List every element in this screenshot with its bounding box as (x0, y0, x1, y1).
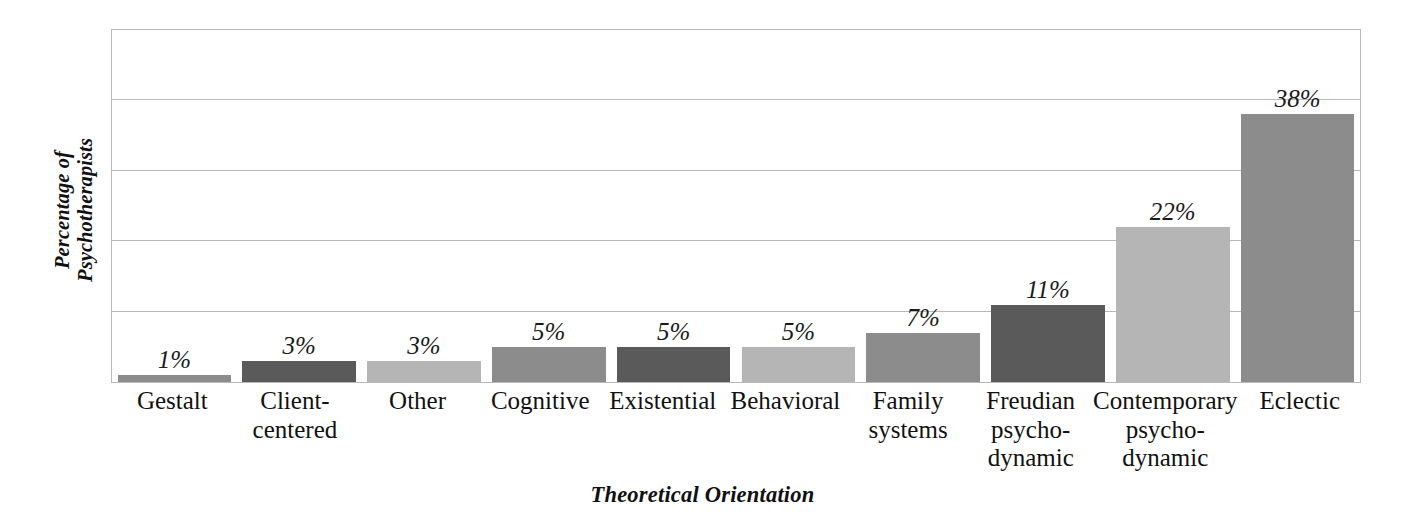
bar-value-label: 3% (283, 333, 316, 358)
x-tick-label-line: centered (235, 416, 356, 445)
bar-value-label: 11% (1026, 277, 1070, 302)
bar[interactable]: 3% (367, 361, 481, 382)
bar-slot: 5% (736, 30, 861, 382)
x-tick-label-line: Existential (603, 387, 724, 416)
x-tick-label-line: Behavioral (725, 387, 846, 416)
bar-value-label: 38% (1275, 86, 1321, 111)
bar-value-label: 5% (657, 319, 690, 344)
x-tick-label-line: Freudian (970, 387, 1091, 416)
x-tick-label-line: dynamic (970, 444, 1091, 473)
x-tick-label: Freudianpsycho-dynamic (969, 387, 1092, 473)
x-tick-label-line: Cognitive (480, 387, 601, 416)
x-tick-label-line: psycho- (970, 416, 1091, 445)
bar-chart-figure: Percentage of Psychotherapists 1%3%3%5%5… (0, 0, 1405, 531)
bar[interactable]: 38% (1241, 114, 1355, 382)
x-axis-title: Theoretical Orientation (0, 482, 1405, 508)
bar-value-label: 1% (158, 347, 191, 372)
x-tick-label: Other (356, 387, 479, 416)
bar-slot: 7% (861, 30, 986, 382)
x-tick-label-line: Other (357, 387, 478, 416)
x-tick-label-line: Client- (235, 387, 356, 416)
x-tick-label-line: dynamic (1093, 444, 1237, 473)
x-tick-label: Familysystems (847, 387, 970, 444)
bar-value-label: 5% (782, 319, 815, 344)
y-axis-title-line-2: Psychotherapists (74, 138, 97, 282)
x-axis-tick-labels: GestaltClient-centeredOtherCognitiveExis… (111, 387, 1361, 482)
x-tick-label: Gestalt (111, 387, 234, 416)
bar[interactable]: 5% (617, 347, 731, 382)
bar-slot: 11% (986, 30, 1111, 382)
bar-value-label: 5% (532, 319, 565, 344)
x-tick-label-line: Contemporary (1093, 387, 1237, 416)
bar-slot: 5% (486, 30, 611, 382)
bar[interactable]: 22% (1116, 227, 1230, 382)
bar[interactable]: 7% (866, 333, 980, 382)
bar-value-label: 22% (1150, 199, 1196, 224)
bar-value-label: 3% (407, 333, 440, 358)
bars-group: 1%3%3%5%5%5%7%11%22%38% (112, 30, 1360, 382)
bar-slot: 3% (237, 30, 362, 382)
x-tick-label: Existential (602, 387, 725, 416)
x-tick-label: Cognitive (479, 387, 602, 416)
plot-area: 1%3%3%5%5%5%7%11%22%38% (111, 29, 1361, 383)
bar[interactable]: 11% (991, 305, 1105, 382)
bar-slot: 38% (1235, 30, 1360, 382)
x-tick-label-line: Family (848, 387, 969, 416)
y-axis-title: Percentage of Psychotherapists (51, 138, 97, 282)
x-tick-label-line: Eclectic (1239, 387, 1360, 416)
y-axis-title-container: Percentage of Psychotherapists (34, 60, 114, 360)
bar-slot: 22% (1110, 30, 1235, 382)
x-tick-label-line: Gestalt (112, 387, 233, 416)
x-tick-label-line: psycho- (1093, 416, 1237, 445)
bar-slot: 1% (112, 30, 237, 382)
bar-slot: 5% (611, 30, 736, 382)
y-axis-title-line-1: Percentage of (51, 138, 74, 282)
bar[interactable]: 3% (242, 361, 356, 382)
bar-value-label: 7% (907, 305, 940, 330)
x-tick-label: Behavioral (724, 387, 847, 416)
x-tick-label: Client-centered (234, 387, 357, 444)
x-tick-label: Contemporarypsycho-dynamic (1092, 387, 1238, 473)
bar[interactable]: 5% (492, 347, 606, 382)
bar[interactable]: 5% (742, 347, 856, 382)
bar-slot: 3% (362, 30, 487, 382)
x-tick-label-line: systems (848, 416, 969, 445)
bar[interactable]: 1% (118, 375, 232, 382)
x-tick-label: Eclectic (1238, 387, 1361, 416)
